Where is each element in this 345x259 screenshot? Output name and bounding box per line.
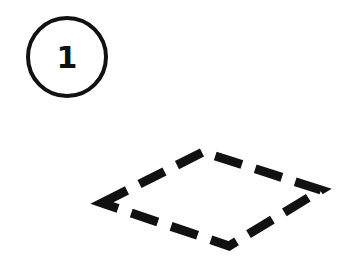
dashed-outline xyxy=(102,152,321,246)
dashed-rhombus-shape xyxy=(0,0,345,259)
